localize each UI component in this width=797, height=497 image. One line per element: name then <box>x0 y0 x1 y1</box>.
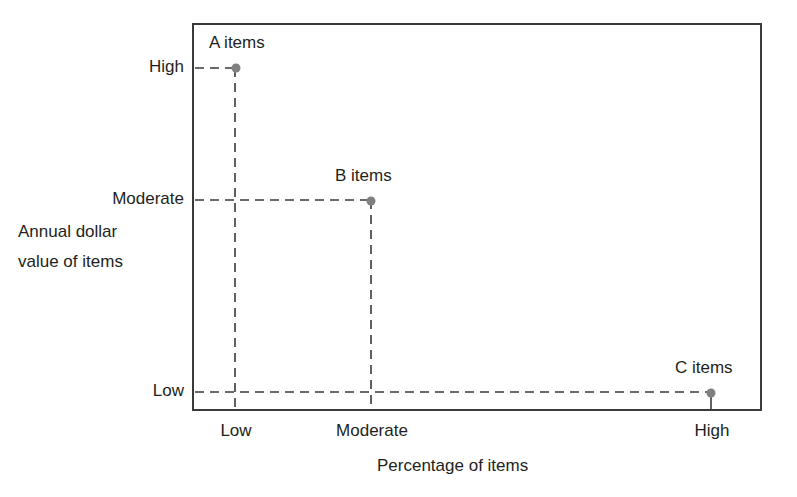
x-tick-high: High <box>642 421 782 441</box>
y-axis-title-line1: Annual dollar <box>18 222 117 242</box>
x-tick-low: Low <box>166 421 306 441</box>
x-axis-title: Percentage of items <box>377 456 528 476</box>
point-b <box>367 197 376 206</box>
point-c <box>707 389 716 398</box>
y-tick-low: Low <box>4 381 184 401</box>
y-tick-moderate: Moderate <box>4 189 184 209</box>
plot-frame <box>193 24 761 410</box>
point-c-label: C items <box>675 358 733 378</box>
point-b-label: B items <box>335 166 392 186</box>
point-a <box>232 64 241 73</box>
x-tick-moderate: Moderate <box>302 421 442 441</box>
point-a-label: A items <box>209 33 265 53</box>
y-tick-high: High <box>4 57 184 77</box>
y-axis-title-line2: value of items <box>18 252 123 272</box>
